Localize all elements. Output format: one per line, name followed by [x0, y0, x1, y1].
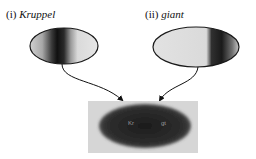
arrow-kruppel-to-embryo	[62, 64, 122, 100]
stained-embryo	[99, 104, 191, 148]
kruppel-embryo-schematic	[30, 28, 98, 64]
arrow-giant-to-embryo	[160, 67, 198, 100]
embryo-label-kr: Kr	[128, 120, 134, 126]
giant-embryo-schematic	[153, 27, 239, 67]
embryo-label-gt: gt	[161, 120, 166, 126]
diagram-canvas	[0, 0, 256, 159]
